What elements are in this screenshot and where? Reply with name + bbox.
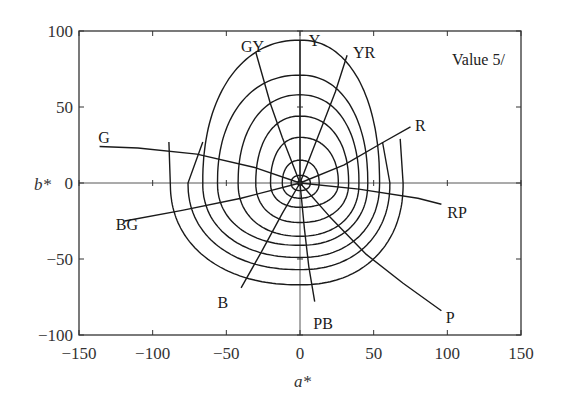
x-tick-label: 50 bbox=[365, 344, 382, 363]
x-tick-label: −50 bbox=[213, 344, 240, 363]
value-annotation: Value 5/ bbox=[452, 51, 505, 68]
hue-label-bg: BG bbox=[116, 216, 139, 233]
y-tick-label: −100 bbox=[38, 326, 73, 345]
x-tick-label: 150 bbox=[508, 344, 534, 363]
x-tick-label: 100 bbox=[435, 344, 461, 363]
chroma-contours bbox=[169, 40, 403, 285]
y-tick-label: 0 bbox=[65, 174, 74, 193]
hue-line-gy bbox=[256, 52, 300, 183]
hue-label-y: Y bbox=[309, 32, 321, 49]
hue-line-p bbox=[300, 183, 441, 311]
hue-line-bg bbox=[125, 183, 300, 221]
x-tick-label: 0 bbox=[296, 344, 305, 363]
munsell-value5-chart: YYRRRPPPBBBGGGY −150−100−50050100150−100… bbox=[0, 0, 565, 402]
x-tick-label: −150 bbox=[61, 344, 96, 363]
hue-label-g: G bbox=[98, 129, 110, 146]
hue-line-rp bbox=[300, 183, 441, 204]
hue-label-p: P bbox=[446, 309, 455, 326]
hue-label-yr: YR bbox=[353, 44, 376, 61]
x-axis-title: a* bbox=[294, 372, 312, 391]
y-axis-title: b* bbox=[34, 175, 52, 194]
hue-line-r bbox=[300, 127, 411, 183]
hue-line-yr bbox=[300, 55, 347, 183]
y-tick-label: 50 bbox=[56, 98, 73, 117]
hue-label-b: B bbox=[217, 294, 228, 311]
hue-label-r: R bbox=[415, 117, 426, 134]
y-tick-label: 100 bbox=[48, 22, 74, 41]
y-tick-label: −50 bbox=[46, 250, 73, 269]
x-tick-label: −100 bbox=[135, 344, 170, 363]
hue-label-rp: RP bbox=[447, 204, 467, 221]
hue-label-pb: PB bbox=[313, 315, 333, 332]
hue-label-gy: GY bbox=[241, 38, 265, 55]
